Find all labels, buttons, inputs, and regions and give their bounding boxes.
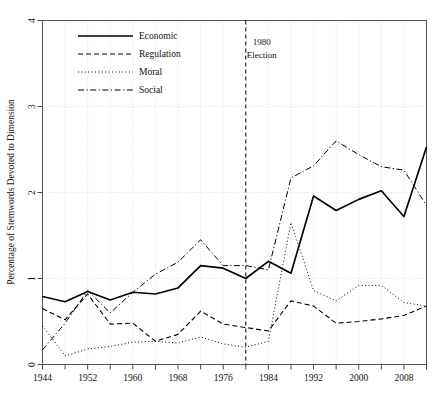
y-tick-label: 0 — [27, 362, 37, 367]
x-tick-label: 1984 — [259, 373, 278, 383]
x-tick-label: 1944 — [33, 373, 52, 383]
y-tick-label: 4 — [27, 18, 37, 23]
y-axis-title: Percentage of Stemwords Devoted to Dimen… — [6, 99, 16, 285]
chart-figure: 1980Election 194419521960196819761984199… — [0, 0, 442, 400]
legend-label-moral: Moral — [139, 67, 163, 77]
election-annotation-line-1: 1980 — [253, 37, 272, 47]
legend-label-economic: Economic — [139, 31, 178, 41]
y-tick-label: 1 — [27, 276, 37, 281]
x-tick-label: 1952 — [78, 373, 97, 383]
x-tick-label: 1976 — [214, 373, 233, 383]
y-tick-label: 2 — [27, 190, 37, 195]
line-chart: 1980Election 194419521960196819761984199… — [0, 0, 442, 400]
election-annotation-line-2: Election — [247, 50, 277, 60]
x-axis-tick-labels: 194419521960196819761984199220002008 — [33, 373, 414, 383]
x-tick-label: 1968 — [169, 373, 188, 383]
x-tick-label: 1960 — [123, 373, 142, 383]
x-tick-label: 1992 — [304, 373, 323, 383]
legend-label-social: Social — [139, 85, 163, 95]
legend-label-regulation: Regulation — [139, 49, 181, 59]
chart-background — [0, 0, 442, 400]
x-tick-label: 2000 — [349, 373, 368, 383]
y-tick-label: 3 — [27, 104, 37, 109]
x-tick-label: 2008 — [394, 373, 413, 383]
